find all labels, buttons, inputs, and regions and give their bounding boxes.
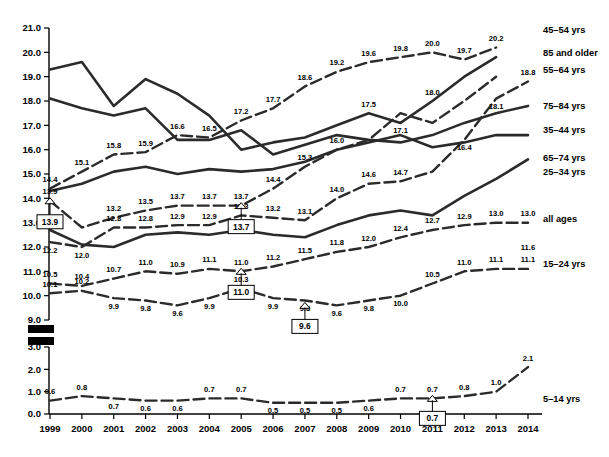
legend-item-25-34-yrs: 25–34 yrs bbox=[543, 167, 585, 177]
data-point-label: 19.6 bbox=[361, 49, 376, 58]
data-point-label: 1.0 bbox=[491, 378, 502, 387]
data-point-label: 10.9 bbox=[170, 260, 185, 269]
data-point-label: 0.8 bbox=[77, 383, 88, 392]
data-point-label: 12.4 bbox=[393, 224, 409, 233]
data-point-label: 11.6 bbox=[521, 243, 535, 252]
data-point-label: 9.9 bbox=[268, 302, 279, 311]
y-tick-label: 18.0 bbox=[23, 95, 42, 106]
data-point-label: 13.7 bbox=[170, 192, 185, 201]
data-point-label: 10.0 bbox=[393, 299, 408, 308]
x-tick-label: 2014 bbox=[517, 423, 539, 434]
data-point-label: 14.6 bbox=[361, 170, 376, 179]
x-tick-label: 2005 bbox=[231, 423, 253, 434]
data-point-label: 17.7 bbox=[266, 95, 281, 104]
data-point-label: 0.6 bbox=[172, 404, 183, 413]
data-point-label: 17.5 bbox=[361, 100, 377, 109]
data-point-label: 10.1 bbox=[43, 280, 59, 289]
data-point-label: 12.7 bbox=[425, 216, 440, 225]
data-point-label: 18.8 bbox=[521, 68, 536, 77]
x-tick-label: 2003 bbox=[167, 423, 188, 434]
x-tick-label: 2001 bbox=[103, 423, 125, 434]
data-point-label: 13.0 bbox=[489, 209, 504, 218]
data-point-label: 0.7 bbox=[427, 385, 438, 394]
data-point-label: 19.2 bbox=[329, 58, 344, 67]
y-tick-label: 19.0 bbox=[23, 71, 42, 82]
data-point-label: 12.9 bbox=[202, 212, 217, 221]
y-tick-label: 20.0 bbox=[23, 47, 42, 58]
y-tick-label: 11.0 bbox=[23, 266, 41, 277]
data-point-label: 16.5 bbox=[202, 124, 218, 133]
callout-label: 13.9 bbox=[42, 217, 59, 227]
data-point-label: 10.2 bbox=[74, 277, 89, 286]
data-point-label: 14.4 bbox=[43, 175, 59, 184]
data-point-label: 12.2 bbox=[43, 246, 58, 255]
data-point-label: 16.6 bbox=[170, 122, 185, 131]
legend-item-35-44-yrs: 35–44 yrs bbox=[543, 125, 585, 135]
data-point-label: 15.9 bbox=[138, 139, 153, 148]
data-point-label: 13.7 bbox=[202, 192, 217, 201]
x-tick-label: 2007 bbox=[294, 423, 315, 434]
data-point-label: 0.7 bbox=[236, 385, 247, 394]
legend-item-85-and-older: 85 and older bbox=[543, 48, 598, 58]
data-point-label: 13.0 bbox=[521, 209, 536, 218]
data-point-label: 12.9 bbox=[457, 212, 472, 221]
data-point-label: 9.8 bbox=[363, 304, 374, 313]
data-point-label: 11.1 bbox=[202, 255, 217, 264]
data-point-label: 0.7 bbox=[108, 402, 119, 411]
data-point-label: 11.0 bbox=[138, 258, 152, 267]
series-line bbox=[50, 367, 528, 403]
data-point-label: 19.8 bbox=[393, 44, 408, 53]
legend-item-45-54-yrs: 45–54 yrs bbox=[543, 25, 585, 35]
y-tick-label: 17.0 bbox=[23, 120, 42, 131]
data-point-label: 11.1 bbox=[521, 255, 536, 264]
x-tick-label: 2002 bbox=[135, 423, 156, 434]
data-point-label: 13.2 bbox=[106, 204, 121, 213]
data-point-label: 11.0 bbox=[457, 258, 471, 267]
x-tick-label: 2012 bbox=[454, 423, 475, 434]
data-point-label: 0.6 bbox=[363, 404, 374, 413]
legend-item-15-24-yrs: 15–24 yrs bbox=[543, 259, 585, 269]
data-point-label: 0.6 bbox=[140, 404, 151, 413]
data-point-label: 0.7 bbox=[204, 385, 215, 394]
y-tick-label: 14.0 bbox=[23, 193, 42, 204]
y-tick-label: 15.0 bbox=[23, 168, 42, 179]
data-point-label: 15.1 bbox=[74, 158, 90, 167]
y-tick-label: 2.0 bbox=[28, 364, 41, 375]
data-point-label: 15.8 bbox=[106, 141, 121, 150]
series-line bbox=[50, 48, 496, 189]
y-tick-label: 16.0 bbox=[23, 144, 42, 155]
y-tick-label: 0.0 bbox=[28, 408, 41, 419]
data-point-label: 9.9 bbox=[108, 302, 119, 311]
data-point-label: 20.2 bbox=[489, 34, 504, 43]
data-point-label: 10.5 bbox=[43, 270, 59, 279]
y-tick-label: 1.0 bbox=[28, 386, 41, 397]
data-point-label: 9.6 bbox=[172, 309, 183, 318]
data-point-label: 20.0 bbox=[425, 39, 440, 48]
data-point-label: 18.6 bbox=[298, 73, 313, 82]
data-point-label: 17.2 bbox=[234, 107, 249, 116]
data-point-label: 14.0 bbox=[329, 185, 344, 194]
data-point-label: 15.3 bbox=[298, 153, 313, 162]
axis-break-icon bbox=[28, 325, 54, 333]
data-point-label: 11.8 bbox=[330, 238, 344, 247]
series-line bbox=[50, 269, 528, 306]
data-point-label: 13.9 bbox=[43, 187, 58, 196]
callout-label: 0.7 bbox=[427, 413, 439, 423]
data-point-label: 0.5 bbox=[300, 406, 311, 415]
callout-label: 13.7 bbox=[233, 222, 250, 232]
y-tick-label: 21.0 bbox=[23, 22, 42, 33]
data-point-label: 9.6 bbox=[332, 309, 343, 318]
data-point-label: 14.4 bbox=[266, 175, 282, 184]
data-point-label: 11.2 bbox=[266, 253, 280, 262]
data-point-label: 16.4 bbox=[457, 143, 473, 152]
y-tick-label: 12.0 bbox=[23, 241, 42, 252]
x-tick-label: 1999 bbox=[39, 423, 60, 434]
data-point-label: 9.8 bbox=[140, 304, 151, 313]
y-tick-label: 10.0 bbox=[23, 290, 42, 301]
data-point-label: 12.8 bbox=[138, 214, 153, 223]
data-point-label: 9.9 bbox=[204, 302, 215, 311]
x-tick-label: 2009 bbox=[358, 423, 379, 434]
axis-break-icon bbox=[28, 337, 54, 345]
data-point-label: 17.1 bbox=[393, 126, 409, 135]
data-point-label: 19.7 bbox=[457, 46, 472, 55]
